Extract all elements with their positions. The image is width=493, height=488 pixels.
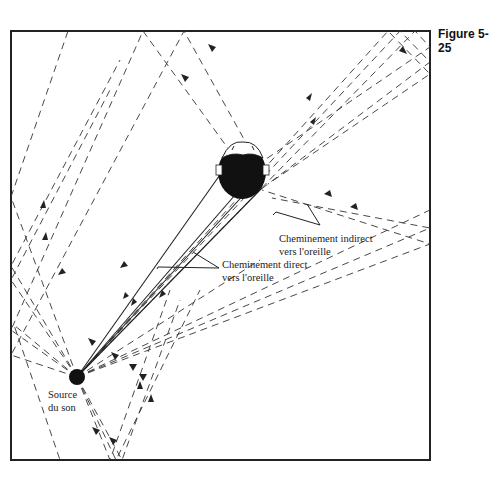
direct-path-label: Cheminement direct vers l'oreille [222, 258, 307, 284]
indirect-label-line2: vers l'oreille [279, 245, 373, 258]
indirect-path-label: Cheminement indirect vers l'oreille [279, 232, 373, 258]
source-label-line1: Source [48, 388, 77, 401]
sound-source-dot [69, 369, 85, 385]
indirect-label-line1: Cheminement indirect [279, 232, 373, 245]
acoustic-reflection-diagram [0, 0, 493, 488]
source-label-line2: du son [48, 401, 77, 414]
direct-label-line1: Cheminement direct [222, 258, 307, 271]
direct-label-line2: vers l'oreille [222, 271, 307, 284]
source-label: Source du son [48, 388, 77, 414]
listener-head [216, 142, 269, 199]
